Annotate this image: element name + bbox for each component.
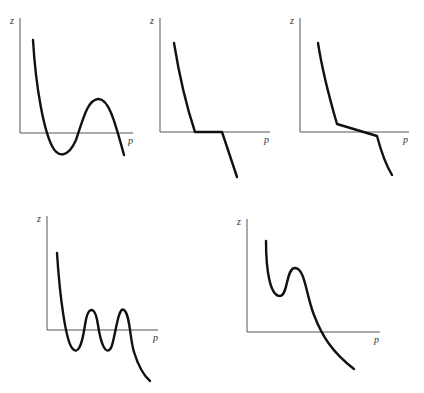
y-axis-label: z — [36, 213, 41, 224]
curve — [174, 43, 237, 177]
panel-2: zp — [149, 15, 270, 177]
x-axis-label: p — [373, 334, 379, 345]
panel-4: zp — [36, 213, 158, 381]
y-axis-label: z — [149, 15, 154, 26]
x-axis-label: p — [402, 134, 408, 145]
x-axis-label: p — [127, 135, 133, 146]
x-axis-label: p — [263, 134, 269, 145]
curve — [318, 43, 392, 175]
y-axis-label: z — [289, 15, 294, 26]
y-axis-label: z — [236, 216, 241, 227]
curve — [57, 253, 150, 381]
axes — [160, 18, 270, 132]
panel-3: zp — [289, 15, 409, 175]
y-axis-label: z — [9, 15, 14, 26]
curve — [33, 40, 124, 155]
panel-5: zp — [236, 216, 380, 369]
x-axis-label: p — [152, 332, 158, 343]
figure-canvas: zpzpzpzpzp — [0, 0, 424, 393]
axes — [300, 18, 409, 132]
curve — [266, 241, 354, 369]
panel-1: zp — [9, 15, 133, 155]
